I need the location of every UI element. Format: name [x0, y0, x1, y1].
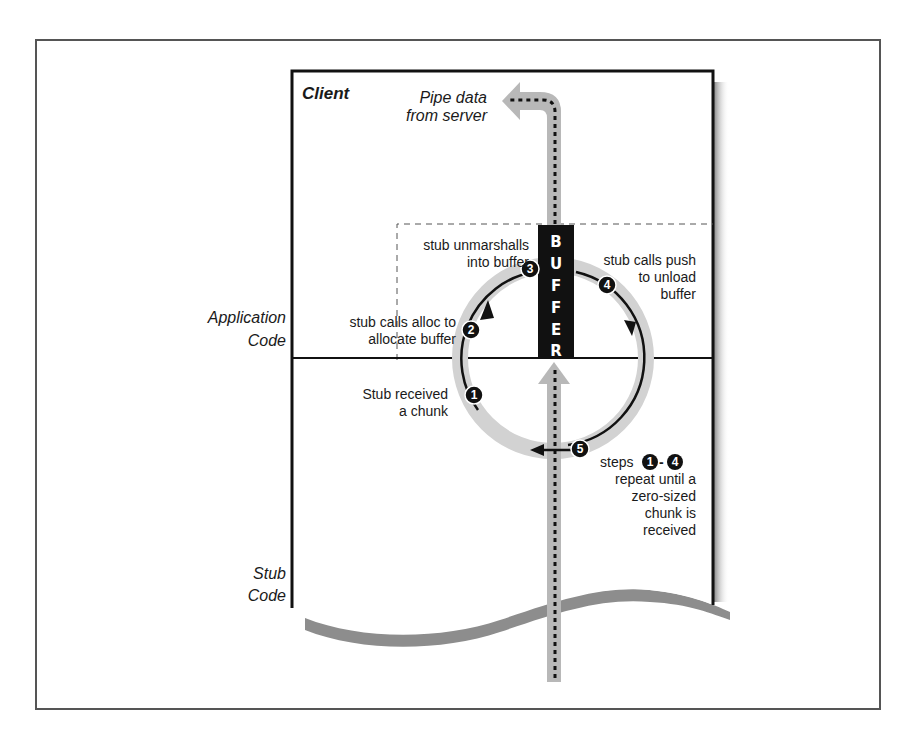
step-marker-4: 4 [598, 276, 616, 294]
step-marker-1: 1 [465, 386, 483, 404]
svg-text:Code: Code [248, 332, 286, 349]
svg-text:Stub: Stub [253, 565, 286, 582]
svg-text:4: 4 [672, 455, 679, 469]
pipe-diagram: B U F F E R 1 2 3 4 5 Client Pipe data f… [0, 0, 912, 743]
svg-text:stub unmarshalls: stub unmarshalls [423, 237, 529, 253]
stub-code-label: Stub Code [248, 565, 286, 604]
svg-text:into buffer: into buffer [467, 254, 529, 270]
svg-text:Application: Application [207, 309, 286, 326]
svg-text:2: 2 [468, 323, 475, 337]
svg-text:F: F [551, 277, 561, 295]
client-box-shadow-right [713, 82, 729, 602]
svg-text:zero-sized: zero-sized [631, 488, 696, 504]
step-marker-5: 5 [571, 440, 589, 458]
svg-text:E: E [551, 321, 561, 339]
svg-text:steps: steps [600, 454, 633, 470]
svg-text:5: 5 [577, 442, 584, 456]
svg-text:Stub received: Stub received [362, 386, 448, 402]
svg-text:received: received [643, 522, 696, 538]
svg-text:a chunk: a chunk [399, 403, 449, 419]
svg-text:U: U [550, 255, 562, 273]
step-marker-2: 2 [462, 321, 480, 339]
svg-text:Code: Code [248, 587, 286, 604]
svg-text:from server: from server [406, 107, 488, 124]
svg-text:1: 1 [647, 455, 654, 469]
svg-text:Pipe data: Pipe data [419, 89, 487, 106]
svg-text:1: 1 [471, 388, 478, 402]
svg-text:stub calls alloc to: stub calls alloc to [349, 314, 456, 330]
svg-text:B: B [550, 233, 561, 251]
svg-text:to unload: to unload [638, 269, 696, 285]
svg-text:-: - [659, 454, 664, 470]
application-code-label: Application Code [207, 309, 286, 349]
svg-text:chunk is: chunk is [645, 505, 696, 521]
client-title: Client [302, 84, 351, 103]
svg-text:4: 4 [604, 278, 611, 292]
svg-text:F: F [551, 299, 561, 317]
svg-text:buffer: buffer [660, 286, 696, 302]
svg-text:stub calls push: stub calls push [603, 252, 696, 268]
svg-text:allocate buffer: allocate buffer [368, 331, 456, 347]
svg-text:repeat until a: repeat until a [615, 471, 696, 487]
svg-text:R: R [550, 342, 562, 360]
